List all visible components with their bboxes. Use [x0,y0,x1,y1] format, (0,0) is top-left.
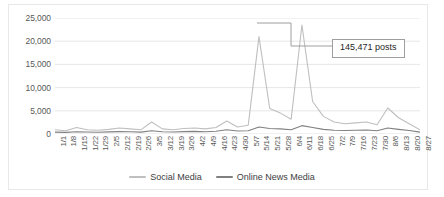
legend-item[interactable]: Social Media [129,172,202,182]
legend-item[interactable]: Online News Media [216,172,315,182]
x-axis-tick-label: 5/14 [262,136,271,151]
chart-container: 25,00020,00015,00010,0005,0000 1/11/81/1… [0,0,444,197]
y-axis: 25,00020,00015,00010,0005,0000 [8,18,55,134]
x-axis-tick-label: 7/23 [370,136,379,151]
x-axis-tick-label: 7/30 [381,136,390,151]
x-axis-tick-label: 8/13 [402,136,411,151]
legend-label: Social Media [150,172,202,182]
x-axis-tick-label: 2/19 [134,136,143,151]
x-axis-tick-label: 1/15 [80,136,89,151]
x-axis-tick-label: 3/26 [187,136,196,151]
x-axis-tick-label: 4/9 [209,136,218,147]
x-axis-tick-label: 7/2 [338,136,347,147]
x-axis-tick-label: 3/12 [166,136,175,151]
y-axis-tick-label: 25,000 [26,13,51,23]
x-axis-tick-label: 7/9 [348,136,357,147]
y-axis-tick-label: 0 [46,129,51,139]
x-axis-tick-label: 6/11 [305,136,314,150]
y-axis-tick-label: 15,000 [26,59,51,69]
x-axis-tick-label: 4/2 [198,136,207,147]
x-axis-tick-label: 6/4 [295,136,304,147]
plot-svg [55,18,420,134]
x-axis-tick-label: 8/27 [424,136,433,151]
y-axis-tick-label: 5,000 [30,106,51,116]
x-axis-tick-label: 2/12 [123,136,132,151]
gridlines [55,18,420,134]
x-axis-tick-label: 8/20 [413,136,422,151]
x-axis-tick-label: 2/5 [112,136,121,147]
x-axis-tick-label: 6/18 [316,136,325,151]
legend-swatch-icon [216,176,233,178]
x-axis-tick-label: 8/6 [391,136,400,147]
x-axis-tick-label: 6/25 [327,136,336,151]
x-axis: 1/11/81/151/221/292/52/122/192/263/53/12… [55,136,420,170]
x-axis-tick-label: 4/30 [241,136,250,151]
plot-area [55,18,420,134]
chart-legend: Social MediaOnline News Media [0,172,444,182]
y-axis-tick-label: 20,000 [26,36,51,46]
x-axis-tick-label: 3/5 [155,136,164,147]
annotation-callout: 145,471 posts [332,39,405,58]
x-axis-tick-label: 2/26 [144,136,153,151]
x-axis-tick-label: 1/29 [101,136,110,151]
y-axis-tick-label: 10,000 [26,83,51,93]
legend-label: Online News Media [237,172,315,182]
x-axis-tick-label: 1/8 [69,136,78,147]
x-axis-tick-label: 3/19 [177,136,186,151]
x-axis-tick-label: 7/16 [359,136,368,151]
legend-swatch-icon [129,176,146,178]
x-axis-tick-label: 4/23 [230,136,239,151]
x-axis-tick-label: 1/1 [59,136,68,147]
x-axis-tick-label: 4/16 [220,136,229,151]
x-axis-tick-label: 5/21 [273,136,282,151]
x-axis-tick-label: 1/22 [91,136,100,151]
x-axis-tick-label: 5/7 [252,136,261,147]
x-axis-tick-label: 5/28 [284,136,293,151]
